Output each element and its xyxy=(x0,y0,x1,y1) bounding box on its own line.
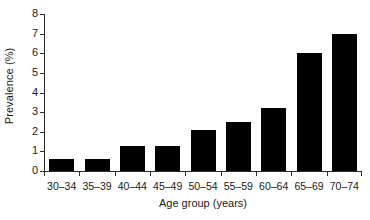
x-axis-category-label: 50–54 xyxy=(185,180,220,192)
x-axis-title: Age group (years) xyxy=(44,197,362,209)
y-axis-tick-label: 8 xyxy=(32,7,38,20)
x-axis-line xyxy=(44,171,362,172)
x-axis-category-label: 40–44 xyxy=(115,180,150,192)
y-axis-tick-label: 2 xyxy=(32,125,38,138)
bar xyxy=(332,34,357,171)
x-axis-category-label: 45–49 xyxy=(150,180,185,192)
y-axis-tick-label: 3 xyxy=(32,105,38,118)
x-axis-tick xyxy=(44,172,45,176)
y-axis-tick-label: 7 xyxy=(32,27,38,40)
y-axis-tick xyxy=(40,73,44,74)
bar xyxy=(226,122,251,171)
x-axis-category-label: 70–74 xyxy=(327,180,362,192)
x-axis-category-label: 65–69 xyxy=(291,180,326,192)
x-axis-tick xyxy=(291,172,292,176)
y-axis-tick xyxy=(40,112,44,113)
y-axis-title: Prevalence (%) xyxy=(0,0,18,172)
x-axis-category-label: 55–59 xyxy=(221,180,256,192)
y-axis-tick xyxy=(40,132,44,133)
x-axis-tick xyxy=(361,172,362,176)
x-axis-tick xyxy=(327,172,328,176)
x-axis-tick xyxy=(115,172,116,176)
plot-area: 012345678 30–3435–3940–4445–4950–5455–59… xyxy=(44,14,362,171)
y-axis-tick xyxy=(40,14,44,15)
y-axis-tick-label: 1 xyxy=(32,144,38,157)
bar xyxy=(120,146,145,172)
y-axis-title-text: Prevalence (%) xyxy=(3,48,15,125)
y-axis-tick xyxy=(40,53,44,54)
bar xyxy=(49,159,74,171)
bar xyxy=(191,130,216,171)
bar-chart-figure: Prevalence (%) 012345678 30–3435–3940–44… xyxy=(0,0,370,220)
x-axis-tick xyxy=(79,172,80,176)
x-axis-tick xyxy=(150,172,151,176)
y-axis-line xyxy=(44,14,45,172)
x-axis-category-label: 30–34 xyxy=(44,180,79,192)
y-axis-tick xyxy=(40,151,44,152)
x-axis-tick xyxy=(185,172,186,176)
y-axis-tick-label: 0 xyxy=(32,164,38,177)
x-axis-tick xyxy=(221,172,222,176)
bar xyxy=(261,108,286,171)
y-axis-tick xyxy=(40,93,44,94)
x-axis-tick xyxy=(256,172,257,176)
x-axis-category-label: 35–39 xyxy=(79,180,114,192)
bar xyxy=(297,53,322,171)
y-axis-tick xyxy=(40,34,44,35)
y-axis-tick-label: 4 xyxy=(32,86,38,99)
bar xyxy=(155,146,180,172)
y-axis-tick-label: 6 xyxy=(32,46,38,59)
y-axis-tick-label: 5 xyxy=(32,66,38,79)
x-axis-category-label: 60–64 xyxy=(256,180,291,192)
bar xyxy=(85,159,110,171)
